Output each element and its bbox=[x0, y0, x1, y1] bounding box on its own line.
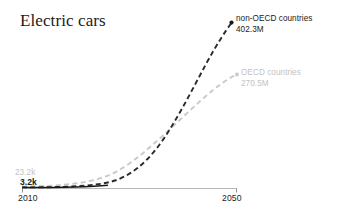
series-endpoint-non-oecd bbox=[229, 21, 233, 25]
series-label-oecd-name: OECD countries bbox=[241, 68, 301, 79]
start-value-oecd: 23.2k bbox=[15, 168, 35, 177]
series-line-non-oecd bbox=[22, 23, 232, 187]
series-endpoint-oecd bbox=[235, 73, 239, 77]
series-label-non-oecd-name: non-OECD countries bbox=[236, 14, 312, 25]
series-label-non-oecd-value: 402.3M bbox=[236, 25, 312, 36]
series-label-oecd: OECD countries 270.5M bbox=[241, 68, 301, 89]
x-axis-label-start: 2010 bbox=[18, 193, 38, 203]
start-value-non-oecd: 3.2k bbox=[20, 177, 37, 187]
x-axis-label-end: 2050 bbox=[222, 193, 242, 203]
chart-container: Electric cars non-OECD countries 402.3M … bbox=[0, 0, 337, 213]
series-line-oecd bbox=[22, 75, 237, 187]
series-label-non-oecd: non-OECD countries 402.3M bbox=[236, 14, 312, 35]
series-label-oecd-value: 270.5M bbox=[241, 79, 301, 90]
